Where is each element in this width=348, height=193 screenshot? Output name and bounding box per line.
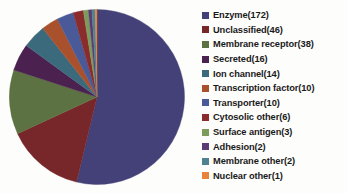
legend-swatch-surface-antigen <box>202 129 209 136</box>
pie-chart-figure: Enzyme(172) Unclassified(46) Membrane re… <box>0 0 348 193</box>
pie-slice-group <box>9 10 184 185</box>
legend-swatch-cytosolic-other <box>202 114 209 121</box>
legend-swatch-adhesion <box>202 143 209 150</box>
legend-item-transcription-factor[interactable]: Transcription factor(10) <box>202 81 348 96</box>
legend-item-surface-antigen[interactable]: Surface antigen(3) <box>202 125 348 140</box>
legend-swatch-unclassified <box>202 26 209 33</box>
legend-label-adhesion: Adhesion(2) <box>213 142 266 152</box>
legend-swatch-membrane-receptor <box>202 41 209 48</box>
legend-item-unclassified[interactable]: Unclassified(46) <box>202 23 348 38</box>
legend-label-membrane-other: Membrane other(2) <box>213 156 295 166</box>
legend-label-nuclear-other: Nuclear other(1) <box>213 171 283 181</box>
legend-label-cytosolic-other: Cytosolic other(6) <box>213 112 290 122</box>
legend-swatch-enzyme <box>202 12 209 19</box>
legend-label-ion-channel: Ion channel(14) <box>213 69 280 79</box>
legend-label-enzyme: Enzyme(172) <box>213 10 269 20</box>
legend-item-secreted[interactable]: Secreted(16) <box>202 52 348 67</box>
legend-swatch-transcription-factor <box>202 85 209 92</box>
legend-swatch-secreted <box>202 56 209 63</box>
legend-swatch-nuclear-other <box>202 172 209 179</box>
pie-chart-plot-area <box>9 7 185 186</box>
legend-item-transporter[interactable]: Transporter(10) <box>202 96 348 111</box>
legend-item-ion-channel[interactable]: Ion channel(14) <box>202 66 348 81</box>
legend-swatch-membrane-other <box>202 158 209 165</box>
legend-item-membrane-other[interactable]: Membrane other(2) <box>202 154 348 169</box>
legend-swatch-transporter <box>202 99 209 106</box>
legend-label-transporter: Transporter(10) <box>213 98 280 108</box>
legend-label-transcription-factor: Transcription factor(10) <box>213 83 314 93</box>
legend-label-unclassified: Unclassified(46) <box>213 25 283 35</box>
legend-label-membrane-receptor: Membrane receptor(38) <box>213 39 314 49</box>
legend-item-adhesion[interactable]: Adhesion(2) <box>202 139 348 154</box>
legend-label-surface-antigen: Surface antigen(3) <box>213 127 292 137</box>
legend-item-nuclear-other[interactable]: Nuclear other(1) <box>202 169 348 184</box>
pie-chart-svg <box>9 7 185 186</box>
legend-item-membrane-receptor[interactable]: Membrane receptor(38) <box>202 37 348 52</box>
legend-item-cytosolic-other[interactable]: Cytosolic other(6) <box>202 110 348 125</box>
legend-swatch-ion-channel <box>202 70 209 77</box>
legend-label-secreted: Secreted(16) <box>213 54 268 64</box>
legend-item-enzyme[interactable]: Enzyme(172) <box>202 8 348 23</box>
chart-legend: Enzyme(172) Unclassified(46) Membrane re… <box>202 8 348 188</box>
